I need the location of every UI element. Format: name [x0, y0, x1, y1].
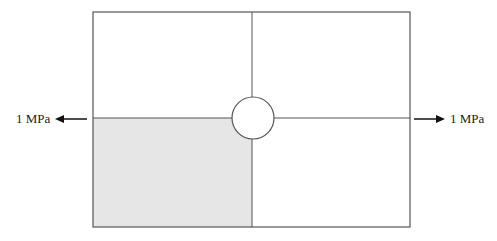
right-load-label: 1 MPa	[450, 112, 484, 125]
right-arrow-icon	[414, 115, 445, 123]
central-hole	[232, 97, 274, 139]
left-load-label: 1 MPa	[16, 112, 50, 125]
shaded-quadrant	[93, 118, 252, 227]
left-arrow-icon	[55, 115, 87, 123]
plate-diagram	[0, 0, 497, 241]
